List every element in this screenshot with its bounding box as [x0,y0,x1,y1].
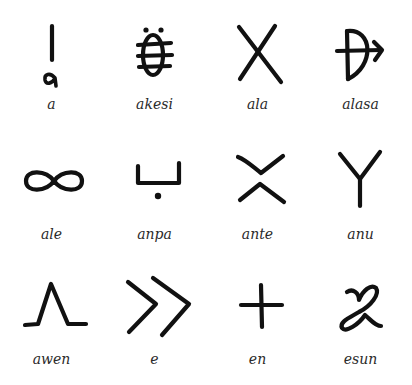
anpa-glyph-icon [103,130,206,230]
en-glyph-icon [206,260,309,360]
ale-glyph-icon [0,130,103,230]
glyph-cell-ante: ante [206,130,309,258]
ala-glyph-icon [206,0,309,100]
glyph-cell-a: a [0,0,103,128]
glyph-cell-ale: ale [0,130,103,258]
glyph-cell-alasa: alasa [309,0,412,128]
glyph-label: e [103,351,206,367]
glyph-cell-awen: awen [0,260,103,385]
ante-glyph-icon [206,130,309,230]
glyph-label: en [206,351,309,367]
glyph-label: a [0,96,103,112]
glyph-cell-anu: anu [309,130,412,258]
glyph-label: anu [309,226,412,242]
glyph-label: anpa [103,226,206,242]
glyph-cell-ala: ala [206,0,309,128]
glyph-label: awen [0,351,103,367]
glyph-label: ale [0,226,103,242]
glyph-label: akesi [103,96,206,112]
glyph-label: ante [206,226,309,242]
anu-glyph-icon [309,130,412,230]
glyph-label: esun [309,351,412,367]
glyph-label: ala [206,96,309,112]
akesi-glyph-icon [103,0,206,100]
glyph-cell-anpa: anpa [103,130,206,258]
esun-glyph-icon [309,260,412,360]
e-glyph-icon [103,260,206,360]
awen-glyph-icon [0,260,103,360]
glyph-cell-en: en [206,260,309,385]
glyph-cell-esun: esun [309,260,412,385]
a-glyph-icon [0,0,103,100]
glyph-cell-akesi: akesi [103,0,206,128]
alasa-glyph-icon [309,0,412,100]
glyph-cell-e: e [103,260,206,385]
glyph-label: alasa [309,96,412,112]
